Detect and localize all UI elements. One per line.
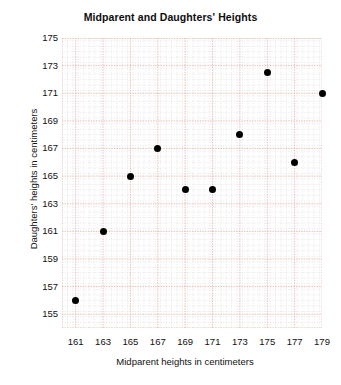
- x-axis-tick-label: 179: [307, 336, 337, 347]
- x-axis-tick-labels: 161163165167169171173175177179: [62, 336, 322, 350]
- scatter-plot-figure: Midparent and Daughters' Heights 1551571…: [0, 0, 341, 385]
- data-point: [291, 159, 298, 166]
- plot-area: [62, 38, 322, 328]
- y-axis-tick-label: 155: [32, 309, 58, 319]
- data-point: [72, 297, 79, 304]
- x-axis-tick-label: 173: [225, 336, 255, 347]
- data-point: [100, 228, 107, 235]
- data-point: [127, 173, 134, 180]
- y-axis-title: Daughters' heights in centimeters: [28, 109, 39, 250]
- data-point: [154, 145, 161, 152]
- data-point: [236, 131, 243, 138]
- data-points-layer: [62, 38, 322, 328]
- y-axis-title-wrapper: Daughters' heights in centimeters: [23, 59, 41, 299]
- x-axis-tick-label: 161: [61, 336, 91, 347]
- x-axis-tick-label: 177: [280, 336, 310, 347]
- data-point: [264, 69, 271, 76]
- data-point: [319, 90, 326, 97]
- data-point: [182, 186, 189, 193]
- x-axis-tick-label: 169: [170, 336, 200, 347]
- x-axis-tick-label: 167: [143, 336, 173, 347]
- x-axis-tick-label: 171: [198, 336, 228, 347]
- x-axis-title: Midparent heights in centimeters: [40, 356, 330, 367]
- data-point: [209, 186, 216, 193]
- x-axis-tick-label: 165: [115, 336, 145, 347]
- chart-title: Midparent and Daughters' Heights: [0, 11, 341, 23]
- x-axis-tick-label: 163: [88, 336, 118, 347]
- x-axis-tick-label: 175: [252, 336, 282, 347]
- y-axis-tick-label: 175: [32, 33, 58, 43]
